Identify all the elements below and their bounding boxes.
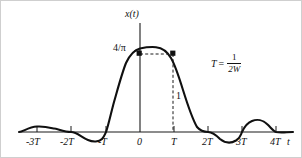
x-tick-label-2T: 2T xyxy=(202,137,213,147)
x-tick-label-minus-T: -T xyxy=(98,137,107,147)
waveform-curve xyxy=(19,47,293,142)
x-axis-label: t xyxy=(287,137,290,147)
y-axis-label: x(t) xyxy=(125,9,139,19)
plot-canvas xyxy=(1,1,302,158)
annotation-numerator: 1 xyxy=(231,53,238,62)
y-tick-label-4-over-pi: 4/π xyxy=(113,43,126,53)
annotation-fraction: 1 2W xyxy=(227,53,241,75)
height-label-1: 1 xyxy=(176,91,181,101)
x-tick-label-T: T xyxy=(171,137,177,147)
x-tick-label-minus-2T: -2T xyxy=(60,137,74,147)
x-tick-label-3T: 3T xyxy=(236,137,247,147)
x-tick-label-4T: 4T xyxy=(270,137,281,147)
marker-origin-square xyxy=(137,51,142,56)
x-tick-label-0: 0 xyxy=(137,137,142,147)
annotation-denominator: 2W xyxy=(227,65,241,74)
annotation-equals-sign: = xyxy=(219,58,225,69)
x-tick-label-minus-3T: -3T xyxy=(26,137,40,147)
annotation-symbol-T: T xyxy=(211,58,217,69)
figure-container: x(t) 4/π 1 t T = 1 2W -3T -2T -T 0 T 2T … xyxy=(0,0,302,158)
annotation-T-equals-one-over-2W: T = 1 2W xyxy=(211,53,241,75)
annotation-leader-line xyxy=(187,57,209,87)
x-axis-ticks xyxy=(37,126,276,132)
marker-T-square xyxy=(170,51,175,56)
